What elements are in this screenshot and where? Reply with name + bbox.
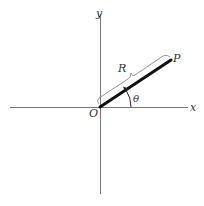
point-label: P	[172, 52, 181, 65]
polar-coordinate-diagram: y x O P R θ	[0, 0, 204, 206]
x-axis-label: x	[190, 101, 197, 114]
angle-arc	[126, 90, 131, 107]
length-label: R	[117, 62, 126, 75]
angle-label: θ	[133, 93, 139, 104]
origin-label: O	[89, 107, 98, 120]
y-axis-label: y	[95, 7, 103, 20]
